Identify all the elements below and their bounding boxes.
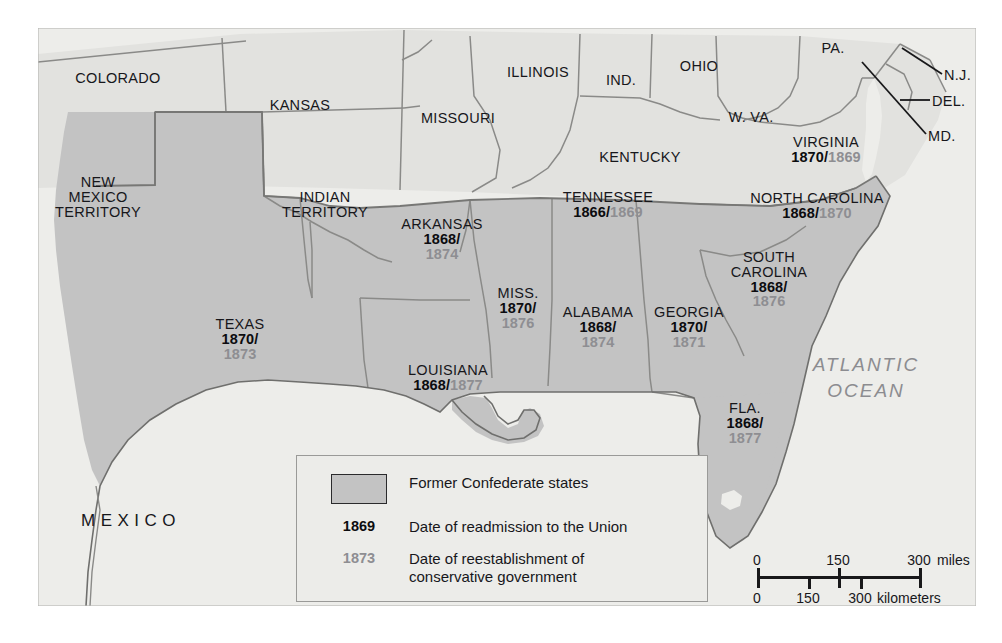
scale-tick-end-km: [860, 578, 863, 589]
legend-row-conservative: 1873 Date of reestablishment of conserva…: [331, 550, 584, 586]
scale-tick-mid-miles: [838, 568, 841, 588]
scale-miles-150: 150: [826, 552, 849, 568]
legend-row-readmission: 1869 Date of readmission to the Union: [331, 518, 627, 536]
scale-tick-0: [757, 568, 760, 588]
scale-km-0: 0: [753, 590, 761, 606]
legend-text-conservative-line1: Date of reestablishment of: [409, 550, 584, 568]
legend-swatch-label: Former Confederate states: [409, 474, 588, 492]
scale-tick-mid-km: [808, 578, 811, 589]
legend-text-conservative-line2: conservative government: [409, 568, 584, 586]
scale-miles-0: 0: [753, 552, 761, 568]
legend-text-readmission: Date of readmission to the Union: [409, 518, 627, 536]
map-figure: COLORADO KANSAS NEW MEXICO TERRITORY IND…: [0, 0, 1002, 643]
scale-unit-kilometers: kilometers: [877, 590, 941, 606]
scale-tick-end-miles: [919, 568, 922, 588]
legend-text-conservative: Date of reestablishment of conservative …: [409, 550, 584, 586]
scale-km-300: 300: [848, 590, 871, 606]
scale-bar: 0 150 300 miles 0 150 300 kilometers: [757, 552, 937, 608]
legend-swatch-confederate: [331, 474, 387, 504]
legend-row-swatch: Former Confederate states: [331, 474, 588, 504]
scale-km-150: 150: [796, 590, 819, 606]
scale-unit-miles: miles: [937, 552, 970, 568]
legend-key-readmission: 1869: [331, 518, 387, 534]
legend-key-conservative: 1873: [331, 550, 387, 566]
scale-miles-300: 300: [907, 552, 930, 568]
legend: Former Confederate states 1869 Date of r…: [296, 455, 708, 602]
